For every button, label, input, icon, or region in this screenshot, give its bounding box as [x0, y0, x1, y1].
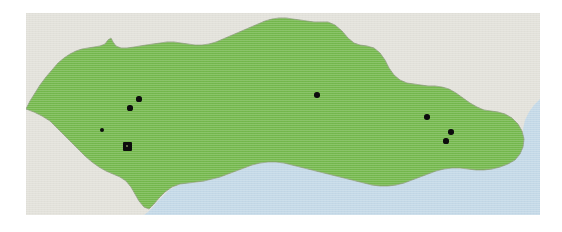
- occurrence-dot-marker: [100, 128, 105, 133]
- occurrence-dot-marker: [314, 92, 320, 98]
- occurrence-dot-marker: [443, 138, 448, 143]
- occurrence-dot-marker: [448, 129, 454, 135]
- occurrence-dot-marker: [127, 105, 132, 110]
- distribution-map-figure: [0, 0, 562, 232]
- occurrence-dot-marker: [136, 96, 141, 101]
- map-panel: [26, 13, 540, 215]
- occurrence-marker-layer: [26, 13, 540, 215]
- occurrence-cluster-marker: [123, 142, 132, 151]
- occurrence-dot-marker: [424, 114, 430, 120]
